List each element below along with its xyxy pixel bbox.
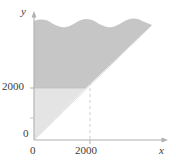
y-axis-arrowhead: [32, 11, 37, 18]
chart-plot-area: [0, 0, 176, 164]
y-axis-tick-label-2000: 2000: [2, 81, 24, 92]
y-axis-title: y: [21, 6, 26, 17]
chart-figure: 2000 0 0 2000 y x: [0, 0, 176, 164]
upper-region-fill: [34, 19, 152, 88]
x-axis-tick-label-2000: 2000: [75, 145, 97, 156]
y-axis-tick-label-0: 0: [23, 128, 29, 139]
x-axis-title: x: [159, 145, 164, 156]
x-axis-tick-label-0: 0: [30, 145, 36, 156]
x-axis-arrowhead: [162, 138, 169, 143]
